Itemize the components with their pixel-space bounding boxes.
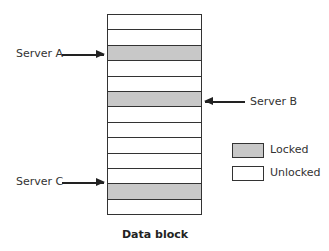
legend-locked-label: Locked: [270, 143, 308, 156]
legend-unlocked-swatch: [232, 166, 264, 181]
block-row-9: [108, 138, 201, 153]
block-row-6-locked: [108, 92, 201, 107]
block-row-8: [108, 123, 201, 138]
block-row-5: [108, 77, 201, 92]
block-row-2: [108, 30, 201, 45]
block-row-4: [108, 61, 201, 76]
server-a-arrow-icon: [62, 54, 104, 56]
data-block: [107, 14, 202, 215]
server-c-arrow-icon: [62, 182, 104, 184]
block-row-12-locked: [108, 184, 201, 199]
block-row-7: [108, 107, 201, 122]
block-row-1: [108, 15, 201, 30]
server-b-arrow-icon: [205, 101, 245, 103]
server-c-label: Server C: [16, 175, 63, 188]
diagram-caption: Data block: [107, 228, 203, 241]
server-a-label: Server A: [16, 47, 63, 60]
block-row-11: [108, 169, 201, 184]
server-b-label: Server B: [250, 95, 297, 108]
block-row-3-locked: [108, 46, 201, 61]
block-row-13: [108, 200, 201, 214]
legend-locked-swatch: [232, 143, 264, 158]
legend-unlocked-label: Unlocked: [270, 166, 321, 179]
block-row-10: [108, 154, 201, 169]
